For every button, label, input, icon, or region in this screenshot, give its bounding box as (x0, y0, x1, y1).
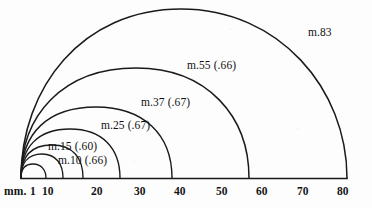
arc-m10 (21, 154, 63, 178)
figure-canvas: m.83 m.55 (.66) m.37 (.67) m.25 (.67) m.… (0, 0, 372, 208)
curve-label-m10: m.10 (.66) (58, 155, 107, 167)
curve-label-m83: m.83 (308, 27, 332, 39)
tick-label-70: 70 (297, 186, 309, 198)
curve-label-m37: m.37 (.67) (141, 97, 190, 109)
tick-label-40: 40 (174, 186, 186, 198)
curve-label-m55: m.55 (.66) (187, 60, 236, 72)
arc-inner-small (21, 164, 46, 178)
axis-caption-mm: mm. (4, 186, 27, 198)
tick-label-60: 60 (256, 186, 268, 198)
arc-group (21, 9, 347, 178)
tick-label-1: 1 (30, 186, 36, 198)
curve-label-m25: m.25 (.67) (101, 120, 150, 132)
tick-label-10: 10 (42, 186, 54, 198)
arc-m83 (21, 9, 347, 178)
curve-label-m15: m.15 (.60) (48, 141, 97, 153)
tick-label-30: 30 (134, 186, 146, 198)
tick-label-20: 20 (91, 186, 103, 198)
tick-label-80: 80 (337, 186, 349, 198)
tick-label-50: 50 (216, 186, 228, 198)
